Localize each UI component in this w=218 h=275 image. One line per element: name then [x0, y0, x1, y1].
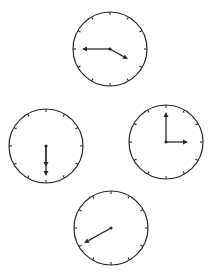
clock-top	[73, 12, 147, 86]
tick-mark	[28, 114, 30, 117]
tick-mark	[75, 128, 78, 130]
tick-mark	[78, 31, 81, 33]
tick-mark	[75, 163, 78, 165]
tick-mark	[128, 257, 130, 260]
center-pivot	[44, 144, 47, 147]
clock-bottom	[74, 191, 148, 265]
tick-mark	[28, 175, 30, 178]
tick-mark	[134, 124, 137, 126]
clocks-diagram	[0, 0, 218, 275]
tick-mark	[139, 66, 142, 68]
tick-mark	[78, 66, 81, 68]
tick-mark	[183, 171, 185, 174]
tick-mark	[63, 114, 65, 117]
arrowhead-icon	[82, 47, 87, 52]
clocks-canvas	[0, 0, 218, 275]
center-pivot	[109, 226, 112, 229]
center-pivot	[164, 140, 167, 143]
arrowhead-icon	[164, 112, 169, 117]
tick-mark	[140, 210, 143, 212]
hour-hand	[110, 49, 124, 57]
tick-mark	[140, 245, 143, 247]
tick-mark	[183, 110, 185, 113]
tick-mark	[195, 159, 198, 161]
tick-mark	[148, 110, 150, 113]
clock-right	[129, 105, 203, 179]
arrowhead-icon	[183, 140, 188, 145]
tick-mark	[14, 128, 17, 130]
tick-mark	[63, 175, 65, 178]
tick-mark	[139, 31, 142, 33]
tick-mark	[92, 78, 94, 81]
tick-mark	[148, 171, 150, 174]
tick-mark	[93, 196, 95, 199]
hand	[88, 228, 111, 241]
tick-mark	[127, 17, 129, 20]
tick-mark	[93, 257, 95, 260]
tick-mark	[128, 196, 130, 199]
tick-mark	[79, 245, 82, 247]
tick-mark	[127, 78, 129, 81]
tick-mark	[14, 163, 17, 165]
center-pivot	[108, 47, 111, 50]
tick-mark	[195, 124, 198, 126]
arrowhead-icon	[44, 171, 49, 176]
tick-mark	[92, 17, 94, 20]
clock-left	[9, 109, 83, 183]
tick-mark	[134, 159, 137, 161]
tick-mark	[79, 210, 82, 212]
